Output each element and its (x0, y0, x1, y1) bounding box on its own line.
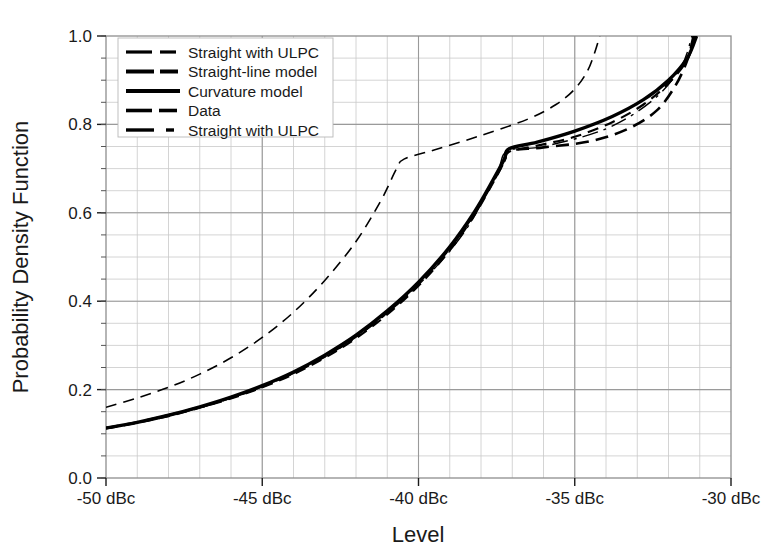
y-tick-label: 0.2 (68, 381, 92, 400)
x-tick-label: -30 dBc (702, 489, 761, 508)
y-tick-label: 0.4 (68, 292, 92, 311)
legend-label: Data (188, 102, 221, 119)
chart-figure: -50 dBc-45 dBc-40 dBc-35 dBc-30 dBc 0.00… (0, 0, 782, 554)
x-tick-label: -50 dBc (77, 489, 136, 508)
x-tick-label: -35 dBc (545, 489, 604, 508)
x-axis-title: Level (392, 522, 445, 547)
chart-canvas: -50 dBc-45 dBc-40 dBc-35 dBc-30 dBc 0.00… (0, 0, 782, 554)
legend-label: Straight with ULPC (188, 44, 319, 61)
legend-label: Straight with ULPC (188, 122, 319, 139)
y-axis-tick-labels: 0.00.20.40.60.81.0 (68, 27, 92, 488)
y-tick-label: 0.6 (68, 204, 92, 223)
x-tick-label: -40 dBc (389, 489, 448, 508)
x-axis-tick-labels: -50 dBc-45 dBc-40 dBc-35 dBc-30 dBc (77, 489, 761, 508)
legend-label: Curvature model (188, 83, 303, 100)
chart-legend: Straight with ULPCStraight-line modelCur… (118, 38, 333, 139)
y-axis-title: Probability Density Function (8, 121, 33, 394)
y-tick-label: 0.8 (68, 115, 92, 134)
x-tick-label: -45 dBc (233, 489, 292, 508)
y-tick-label: 1.0 (68, 27, 92, 46)
y-tick-label: 0.0 (68, 469, 92, 488)
legend-label: Straight-line model (188, 63, 317, 80)
